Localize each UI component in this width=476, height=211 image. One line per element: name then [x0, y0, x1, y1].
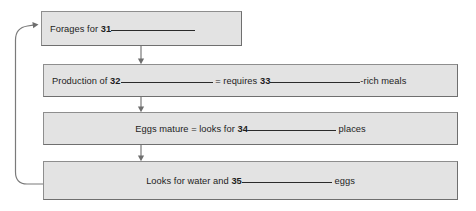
- flow-box-4: Looks for water and 35 eggs: [43, 161, 458, 200]
- flow-box-2: Production of 32 = requires 33-rich meal…: [43, 64, 458, 97]
- box2-text-before: Production of: [52, 76, 110, 86]
- arrow-feedback-loop: [16, 22, 44, 184]
- box3-answer-blank[interactable]: [248, 130, 336, 131]
- box2-text-middle: = requires: [213, 76, 260, 86]
- box4-answer-blank[interactable]: [242, 182, 332, 183]
- flow-box-3: Eggs mature = looks for 34 places: [43, 112, 458, 145]
- flow-box-4-text: Looks for water and 35 eggs: [44, 175, 457, 187]
- flow-box-3-text: Eggs mature = looks for 34 places: [44, 123, 457, 135]
- box4-text-after: eggs: [332, 176, 355, 186]
- flow-box-1: Forages for 31: [41, 11, 242, 46]
- box3-question-number: 34: [237, 124, 247, 134]
- arrow-box1-to-box2: [138, 46, 144, 64]
- box2-text-after: -rich meals: [360, 76, 406, 86]
- box2-answer-blank-33[interactable]: [270, 82, 360, 83]
- flow-box-2-text: Production of 32 = requires 33-rich meal…: [44, 75, 457, 87]
- box4-question-number: 35: [231, 176, 241, 186]
- box3-text-before: Eggs mature = looks for: [135, 124, 237, 134]
- box2-question-number: 32: [110, 76, 120, 86]
- arrow-box3-to-box4: [138, 145, 144, 161]
- arrow-box2-to-box3: [138, 97, 144, 112]
- box2-question-number-2: 33: [260, 76, 270, 86]
- box1-question-number: 31: [101, 24, 111, 34]
- box4-text-before: Looks for water and: [146, 176, 231, 186]
- box1-text-before: Forages for: [50, 24, 101, 34]
- flow-box-1-text: Forages for 31: [42, 23, 241, 35]
- box2-answer-blank-32[interactable]: [121, 82, 213, 83]
- box1-answer-blank[interactable]: [111, 30, 195, 31]
- box3-text-after: places: [336, 124, 366, 134]
- flowchart-diagram: Forages for 31 Production of 32 = requir…: [0, 0, 476, 211]
